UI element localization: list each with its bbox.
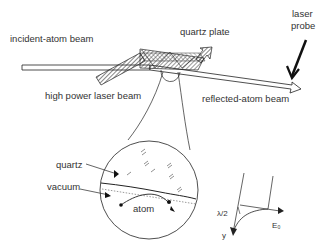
laser-probe-arrow <box>287 40 306 78</box>
label-lambda-half: λ/2 <box>217 210 228 218</box>
magnification-lines <box>128 70 190 150</box>
label-laser-probe-2: probe <box>291 21 315 31</box>
label-atom: atom <box>133 204 154 214</box>
label-laser-probe-1: laser <box>292 9 313 19</box>
label-quartz: quartz <box>56 160 82 170</box>
label-quartz-plate: quartz plate <box>180 27 230 37</box>
label-incident-atom-beam: incident-atom beam <box>10 34 93 44</box>
label-reflected-atom-beam: reflected-atom beam <box>202 94 289 104</box>
label-energy: E₀ <box>272 222 281 230</box>
magnified-surface-circle <box>100 141 198 239</box>
label-high-power-laser-beam: high power laser beam <box>45 91 141 101</box>
label-vacuum: vacuum <box>47 182 80 192</box>
quartz-plate <box>140 49 204 70</box>
atom-mirror-diagram: incident-atom beam quartz plate laser pr… <box>0 0 328 250</box>
label-y-axis: y <box>222 232 226 240</box>
